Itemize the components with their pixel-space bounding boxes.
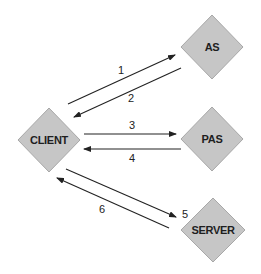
edge-1-label: 1: [118, 64, 124, 76]
arrow-6-line: [57, 178, 169, 228]
edge-4-pas-to-client: 4: [84, 149, 181, 164]
node-pas: PAS: [181, 107, 243, 171]
edge-2-as-to-client: 2: [74, 68, 181, 117]
edge-1-client-to-as: 1: [68, 55, 175, 104]
edge-6-server-to-client: 6: [57, 178, 169, 228]
edge-3-client-to-pas: 3: [84, 119, 176, 134]
pas-label: PAS: [202, 133, 223, 145]
edge-6-label: 6: [99, 203, 105, 215]
edge-4-label: 4: [129, 152, 135, 164]
arrow-5-line: [66, 169, 176, 217]
arrow-1-line: [68, 55, 175, 104]
node-server: SERVER: [181, 198, 245, 262]
auth-flow-diagram: AS CLIENT PAS SERVER 1 2 3 4 5 6: [0, 0, 261, 274]
edge-5-label: 5: [182, 208, 188, 220]
edge-5-client-to-server: 5: [66, 169, 188, 220]
client-label: CLIENT: [30, 134, 69, 146]
server-label: SERVER: [191, 224, 235, 236]
edge-3-label: 3: [129, 119, 135, 131]
edge-2-label: 2: [128, 92, 134, 104]
as-label: AS: [205, 41, 220, 53]
node-client: CLIENT: [18, 108, 80, 172]
node-as: AS: [181, 15, 243, 79]
